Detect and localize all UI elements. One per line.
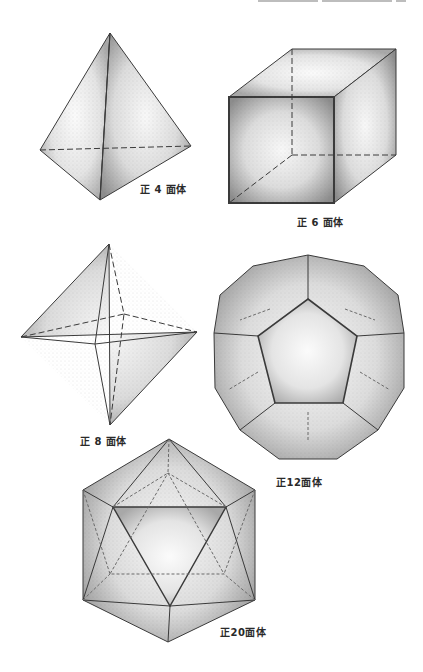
hexahedron-figure: [229, 49, 396, 203]
tetrahedron-label: 正 4 面体: [140, 181, 187, 196]
platonic-solids-illustration: [0, 0, 423, 672]
icosahedron-figure: [83, 439, 255, 642]
tetrahedron-figure: [40, 33, 191, 200]
icosahedron-label: 正20面体: [220, 624, 266, 639]
octahedron-figure: [21, 244, 197, 425]
dodecahedron-figure: [214, 255, 404, 459]
dodecahedron-label: 正12面体: [276, 474, 322, 489]
octahedron-label: 正 8 面体: [80, 433, 127, 448]
hexahedron-label: 正 6 面体: [297, 214, 344, 229]
